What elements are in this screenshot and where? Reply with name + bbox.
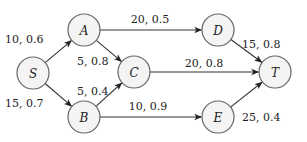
edge-label-b-c: 5, 0.4: [77, 85, 109, 98]
node-c: C: [118, 56, 150, 88]
edge-label-e-t: 25, 0.4: [242, 111, 280, 124]
edge-label-s-a: 10, 0.6: [5, 33, 43, 46]
node-t: T: [259, 56, 291, 88]
node-label: B: [79, 111, 89, 125]
node-label: A: [79, 24, 89, 38]
node-e: E: [202, 101, 234, 133]
node-label: D: [212, 24, 223, 38]
edge-e-t: [231, 82, 262, 107]
edge-label-b-e: 10, 0.9: [129, 100, 167, 113]
edge-label-a-d: 20, 0.5: [131, 13, 169, 26]
edge-s-a: [45, 41, 71, 63]
directed-graph: SABCDET 10, 0.615, 0.75, 0.820, 0.55, 0.…: [0, 0, 307, 142]
node-b: B: [68, 101, 100, 133]
node-label: S: [29, 67, 37, 81]
edge-label-s-b: 15, 0.7: [5, 97, 43, 110]
edge-label-d-t: 15, 0.8: [242, 38, 280, 51]
node-label: T: [271, 66, 280, 80]
node-label: E: [213, 111, 223, 125]
edge-label-a-c: 5, 0.8: [77, 55, 109, 68]
node-s: S: [17, 57, 49, 89]
edge-label-c-t: 20, 0.8: [185, 57, 223, 70]
node-d: D: [202, 14, 234, 46]
edge-s-b: [45, 84, 71, 107]
graph-canvas: SABCDET 10, 0.615, 0.75, 0.820, 0.55, 0.…: [0, 0, 307, 142]
node-label: C: [129, 66, 138, 80]
node-a: A: [68, 14, 100, 46]
